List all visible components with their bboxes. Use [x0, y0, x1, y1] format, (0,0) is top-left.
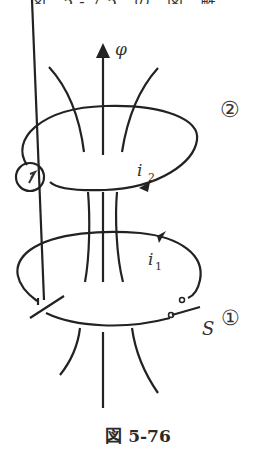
current-2-subscript: 2	[148, 171, 155, 184]
mutual-induction-diagram: φ ② i 2 i 1 S ①	[0, 0, 276, 465]
coil-1-loop-lower	[46, 313, 170, 325]
coil-2	[16, 106, 197, 192]
current-1-subscript: 1	[155, 260, 162, 273]
middle-field-lines	[85, 192, 123, 282]
current-2-label: i	[137, 160, 142, 180]
flux-arrow	[96, 43, 110, 155]
field-line-right-upper	[122, 68, 158, 152]
field-line-right-lower	[132, 328, 158, 393]
coil-1	[17, 0, 200, 325]
coil-1-label: ①	[221, 306, 240, 330]
field-line-mid-left	[85, 192, 89, 282]
switch-label: S	[202, 318, 214, 339]
galvanometer-needle-icon	[29, 172, 35, 183]
figure-caption: 図 5-76	[0, 422, 276, 447]
switch-contact-upper	[180, 298, 185, 303]
lower-field-lines	[60, 328, 158, 408]
coil-2-loop	[22, 106, 197, 190]
battery-plate-short	[32, 0, 44, 300]
field-line-mid-right	[116, 192, 123, 282]
flux-label: φ	[115, 39, 127, 59]
switch-lever	[172, 307, 200, 315]
coil-2-label: ②	[220, 97, 240, 122]
current-1-label: i	[148, 249, 153, 269]
flux-arrow-head-icon	[96, 43, 110, 58]
coil-1-loop-upper	[17, 232, 200, 301]
field-line-left-lower	[60, 328, 80, 375]
